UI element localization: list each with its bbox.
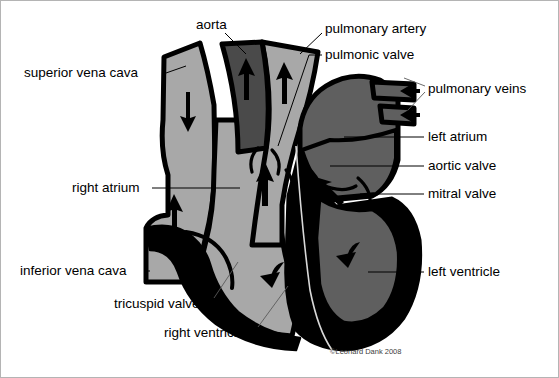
label-superior-vena-cava: superior vena cava bbox=[24, 65, 139, 80]
label-aorta: aorta bbox=[196, 17, 227, 32]
label-pulmonary-veins: pulmonary veins bbox=[428, 81, 527, 96]
label-aortic-valve: aortic valve bbox=[428, 158, 496, 173]
label-left-atrium: left atrium bbox=[428, 129, 487, 144]
label-inferior-vena-cava: inferior vena cava bbox=[20, 263, 127, 278]
label-left-ventricle: left ventricle bbox=[428, 264, 500, 279]
label-right-atrium: right atrium bbox=[72, 180, 140, 195]
label-right-ventricle: right ventricle bbox=[164, 325, 244, 340]
label-pulmonary-artery: pulmonary artery bbox=[325, 21, 427, 36]
copyright-credit: ©Leonard Dank 2008 bbox=[330, 347, 401, 356]
label-pulmonic-valve: pulmonic valve bbox=[325, 47, 414, 62]
heart-anatomy-diagram: aorta pulmonary artery pulmonic valve su… bbox=[0, 0, 559, 378]
label-tricuspid-valve: tricuspid valve bbox=[114, 296, 200, 311]
label-mitral-valve: mitral valve bbox=[428, 186, 496, 201]
